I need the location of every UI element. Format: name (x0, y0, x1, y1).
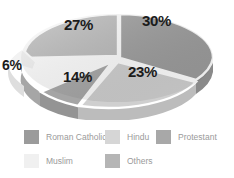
legend-item-roman-catholic[interactable]: Roman Catholic (24, 126, 106, 148)
slice-label-protestant: 14% (63, 68, 92, 85)
legend-row-1: Roman Catholic Hindu Protestant (0, 126, 234, 148)
pie-svg (0, 0, 234, 120)
legend-swatch-roman-catholic (24, 130, 39, 144)
slice-label-roman-catholic: 30% (142, 12, 171, 29)
pie-sheen-overlay (21, 14, 213, 102)
slice-label-muslim: 6% (2, 57, 22, 73)
pie-chart-figure: 30% 23% 14% 6% 27% Roman Catholic Hindu … (0, 0, 234, 178)
legend-item-protestant[interactable]: Protestant (156, 126, 217, 148)
slice-label-others: 27% (64, 16, 93, 33)
chart-legend: Roman Catholic Hindu Protestant Muslim O… (0, 122, 234, 178)
legend-swatch-protestant (156, 130, 171, 144)
legend-item-muslim[interactable]: Muslim (24, 150, 73, 172)
legend-label-muslim: Muslim (46, 156, 73, 166)
legend-item-others[interactable]: Others (105, 150, 153, 172)
legend-row-2: Muslim Others (0, 150, 234, 172)
legend-label-others: Others (127, 156, 153, 166)
slice-label-hindu: 23% (128, 63, 157, 80)
legend-swatch-muslim (24, 154, 39, 168)
legend-label-hindu: Hindu (127, 132, 149, 142)
legend-swatch-hindu (105, 130, 120, 144)
legend-swatch-others (105, 154, 120, 168)
legend-label-protestant: Protestant (178, 132, 217, 142)
legend-label-roman-catholic: Roman Catholic (46, 132, 106, 142)
legend-item-hindu[interactable]: Hindu (105, 126, 149, 148)
pie-chart-graphic: 30% 23% 14% 6% 27% (0, 0, 234, 120)
